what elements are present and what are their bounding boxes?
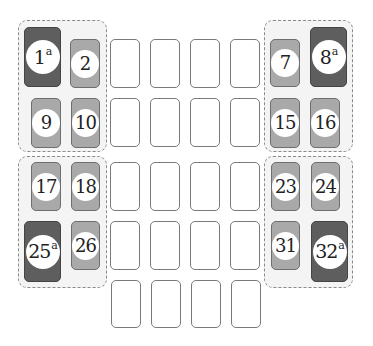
empty-slot <box>190 98 220 147</box>
fuse-2: 2 <box>70 39 100 88</box>
empty-slot <box>230 162 260 211</box>
empty-slot <box>231 280 261 328</box>
fuse-label: 23 <box>272 173 299 201</box>
fuse-26: 26 <box>71 221 100 270</box>
fuse-23: 23 <box>271 162 300 211</box>
empty-slot <box>110 39 140 88</box>
fuse-9: 9 <box>31 98 61 148</box>
empty-slot <box>190 221 220 270</box>
empty-slot <box>151 280 181 328</box>
fuse-label: 16 <box>311 109 339 137</box>
fuse-15: 15 <box>270 98 300 148</box>
fuse-label: 15 <box>271 109 299 137</box>
empty-slot <box>190 39 220 88</box>
empty-slot <box>150 162 180 211</box>
fuse-label: 26 <box>72 232 99 260</box>
empty-slot <box>230 98 260 147</box>
fuse-label: 24 <box>312 173 339 201</box>
fuse-label: 2 <box>71 50 99 78</box>
empty-slot <box>110 221 140 270</box>
fuse-8: 8a <box>310 27 347 87</box>
fuse-7: 7 <box>270 39 300 87</box>
fuse-label: 8a <box>312 40 346 74</box>
empty-slot <box>110 98 140 147</box>
empty-slot <box>150 39 180 88</box>
fuse-1: 1a <box>24 27 61 87</box>
fuse-label: 17 <box>32 173 60 201</box>
empty-slot <box>150 221 180 270</box>
fuse-label: 9 <box>32 109 60 137</box>
fuse-label: 7 <box>271 49 299 77</box>
empty-slot <box>110 162 140 211</box>
fuse-17: 17 <box>31 162 61 211</box>
fuse-31: 31 <box>271 221 300 270</box>
fuse-label: 25a <box>26 235 60 269</box>
fuse-25: 25a <box>24 221 61 282</box>
empty-slot <box>111 280 141 328</box>
empty-slot <box>191 280 221 328</box>
fuse-label: 31 <box>272 232 299 260</box>
fuse-32: 32a <box>311 221 348 282</box>
fuse-16: 16 <box>310 98 340 148</box>
fuse-10: 10 <box>71 98 100 148</box>
empty-slot <box>230 39 260 88</box>
fuse-label: 18 <box>72 173 99 201</box>
empty-slot <box>150 98 180 147</box>
fuse-label: 32a <box>313 235 347 269</box>
fuse-label: 1a <box>26 40 60 74</box>
fuse-label: 10 <box>72 109 99 137</box>
fuse-24: 24 <box>311 162 340 211</box>
empty-slot <box>190 162 220 211</box>
empty-slot <box>230 221 260 270</box>
fuse-18: 18 <box>71 162 100 211</box>
